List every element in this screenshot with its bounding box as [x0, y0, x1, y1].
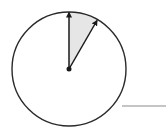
- diagram-canvas: [0, 0, 166, 129]
- circle-sector-diagram: [0, 0, 166, 129]
- center-dot: [67, 67, 72, 72]
